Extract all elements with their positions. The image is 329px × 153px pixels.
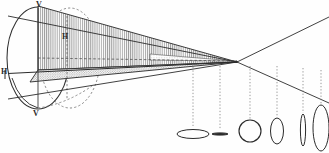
label-v-top: V — [36, 1, 42, 9]
cone-apex-point — [236, 61, 238, 63]
figure-canvas: V H H V — [0, 0, 329, 153]
base-ellipse-hidden-arc — [38, 86, 92, 108]
cross-section-degenerate-line — [212, 133, 228, 135]
cross-section-shapes — [177, 105, 329, 151]
ray-lower-rear — [237, 62, 329, 103]
cone-diagram-svg — [0, 0, 329, 153]
cross-section-narrow-ellipse — [300, 114, 305, 146]
cross-section-tallest-ellipse — [313, 105, 329, 151]
cross-section-flat-ellipse — [177, 130, 209, 139]
cross-section-tall-ellipse — [271, 118, 284, 144]
cone-body-group — [5, 0, 329, 109]
cross-section-drop-lines — [193, 64, 321, 130]
label-h-left: H — [1, 68, 7, 76]
ray-upper-rear — [237, 17, 329, 62]
label-h-inner: H — [62, 33, 68, 41]
cross-section-circle — [239, 120, 261, 142]
label-v-bottom: V — [33, 110, 39, 118]
